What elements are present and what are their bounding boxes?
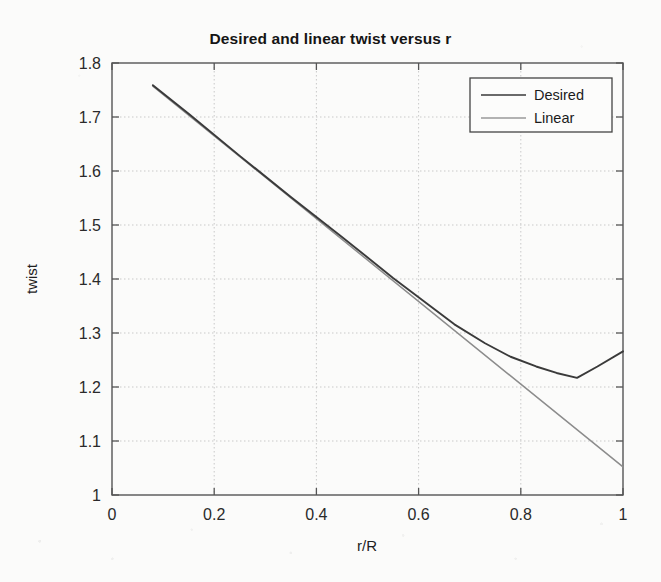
y-axis-tick-labels: 11.11.21.31.41.51.61.71.8 [79,55,101,504]
grid-lines-horizontal [112,117,623,441]
y-tick-label: 1.6 [79,163,101,180]
y-tick-label: 1.5 [79,217,101,234]
y-tick-label: 1.1 [79,433,101,450]
x-tick-label: 0.4 [305,506,327,523]
y-tick-label: 1.7 [79,109,101,126]
y-tick-label: 1 [92,487,101,504]
x-tick-label: 0.2 [203,506,225,523]
y-tick-label: 1.2 [79,379,101,396]
x-axis-tick-labels: 00.20.40.60.81 [108,506,628,523]
chart-legend[interactable]: Desired Linear [470,78,612,132]
y-tick-label: 1.4 [79,271,101,288]
chart-plot-area: 00.20.40.60.81 11.11.21.31.41.51.61.71.8… [0,0,661,582]
x-tick-label: 0.8 [510,506,532,523]
x-tick-label: 0.6 [407,506,429,523]
x-tick-label: 0 [108,506,117,523]
x-axis-label: r/R [357,537,377,554]
y-tick-label: 1.8 [79,55,101,72]
x-tick-label: 1 [619,506,628,523]
y-tick-label: 1.3 [79,325,101,342]
legend-label-desired: Desired [534,87,584,103]
legend-label-linear: Linear [534,110,574,126]
chart-page: Desired and linear twist versus r 00.20.… [0,0,661,582]
data-series-group [153,85,623,467]
y-axis-label: twist [23,263,40,294]
